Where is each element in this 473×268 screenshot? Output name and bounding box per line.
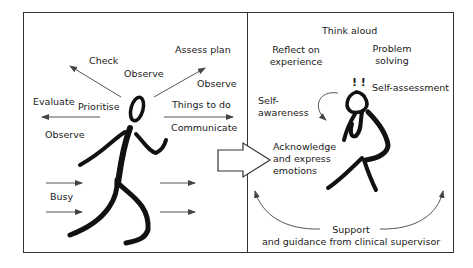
block-arrow-right-icon — [218, 143, 270, 177]
label-prioritise: Prioritise — [78, 101, 120, 113]
thinking-figure-icon — [328, 92, 388, 190]
label-check: Check — [89, 55, 118, 67]
label-acknowledge-emotions: Acknowledge and express emotions — [273, 141, 336, 177]
label-support-guidance: Support and guidance from clinical super… — [248, 224, 454, 248]
label-evaluate: Evaluate — [33, 96, 75, 108]
label-reflect-on-experience: Reflect on experience — [258, 44, 334, 68]
label-observe-right: Observe — [197, 78, 237, 90]
label-observe-left: Observe — [45, 129, 85, 141]
label-self-awareness: Self- awareness — [258, 95, 309, 119]
label-assess-plan: Assess plan — [175, 44, 231, 56]
label-think-aloud: Think aloud — [322, 25, 377, 37]
running-figure-icon — [70, 96, 166, 243]
label-communicate: Communicate — [171, 122, 237, 134]
label-things-to-do: Things to do — [172, 99, 231, 111]
exclamation-marks: ! ! — [352, 77, 366, 89]
label-problem-solving: Problem solving — [362, 43, 422, 67]
label-observe-top: Observe — [124, 68, 164, 80]
label-busy: Busy — [50, 191, 73, 203]
label-self-assessment: Self-assessment — [372, 82, 449, 94]
